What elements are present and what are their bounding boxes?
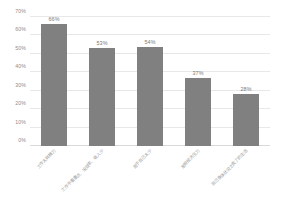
plot-area: 0%10%20%30%40%50%60%70% 66%53%54%37%28% bbox=[30, 17, 270, 146]
y-axis-tick-label: 20% bbox=[15, 100, 26, 106]
bar-slot: 37% bbox=[174, 17, 222, 146]
bar[interactable] bbox=[185, 78, 211, 146]
bar-value-label: 53% bbox=[96, 40, 107, 46]
y-axis-tick-label: 70% bbox=[15, 8, 26, 14]
bars-layer: 66%53%54%37%28% bbox=[30, 17, 270, 146]
bar[interactable] bbox=[89, 48, 115, 146]
bar-value-label: 28% bbox=[240, 86, 251, 92]
bar[interactable] bbox=[137, 47, 163, 147]
y-axis-tick-label: 60% bbox=[15, 26, 26, 32]
bar-slot: 54% bbox=[126, 17, 174, 146]
x-axis-labels: 工作太耗精力工作不看重点、没效率、收入少用于自己太少家庭经济压力自己身体状况之类… bbox=[30, 147, 270, 217]
bar[interactable] bbox=[41, 24, 67, 146]
y-axis-tick-label: 50% bbox=[15, 45, 26, 51]
bar-slot: 28% bbox=[222, 17, 270, 146]
bar-chart: 0%10%20%30%40%50%60%70% 66%53%54%37%28% … bbox=[0, 0, 281, 221]
x-axis-tick-label: 工作太耗精力 bbox=[36, 149, 57, 170]
bar-slot: 53% bbox=[78, 17, 126, 146]
x-axis-tick-label: 家庭经济压力 bbox=[180, 149, 201, 170]
y-axis-tick-label: 30% bbox=[15, 82, 26, 88]
bar[interactable] bbox=[233, 94, 259, 146]
bar-value-label: 37% bbox=[192, 70, 203, 76]
x-axis-tick-label: 自己身体状况之类了的生活 bbox=[211, 149, 249, 187]
x-axis-tick-label: 工作不看重点、没效率、收入少 bbox=[61, 149, 105, 193]
y-axis-tick-label: 0% bbox=[18, 137, 26, 143]
bar-slot: 66% bbox=[30, 17, 78, 146]
x-axis-tick-label: 用于自己太少 bbox=[132, 149, 153, 170]
bar-value-label: 54% bbox=[144, 39, 155, 45]
y-axis-tick-label: 40% bbox=[15, 63, 26, 69]
bar-value-label: 66% bbox=[48, 16, 59, 22]
y-axis-tick-label: 10% bbox=[15, 119, 26, 125]
